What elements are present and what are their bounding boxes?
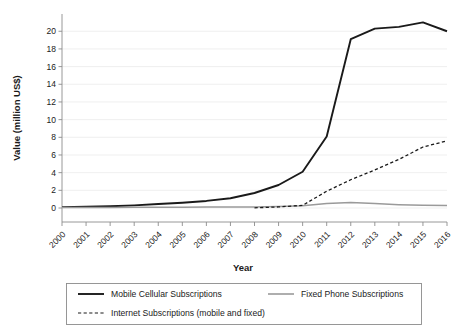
x-tick-label: 2010	[288, 229, 309, 250]
x-tick-label: 2005	[167, 229, 188, 250]
x-tick-label: 2014	[384, 229, 405, 250]
x-axis-ticks: 2000200120022003200420052006200720082009…	[47, 222, 453, 250]
y-tick-label: 2	[51, 185, 56, 195]
x-tick-label: 2001	[71, 229, 92, 250]
x-tick-label: 2016	[432, 229, 453, 250]
series-line-2	[255, 141, 448, 208]
line-chart: 02468101214161820 2000200120022003200420…	[0, 0, 454, 333]
series-line-0	[62, 22, 447, 207]
y-axis-title: Value (million US$)	[11, 75, 22, 161]
x-tick-label: 2013	[360, 229, 381, 250]
y-tick-label: 20	[47, 26, 57, 36]
gridlines	[62, 31, 447, 208]
x-axis-title: Year	[233, 262, 253, 273]
x-tick-label: 2002	[95, 229, 116, 250]
chart-figure: 02468101214161820 2000200120022003200420…	[0, 0, 454, 333]
y-tick-label: 0	[51, 203, 56, 213]
y-tick-label: 4	[51, 168, 56, 178]
y-tick-label: 16	[47, 62, 57, 72]
y-tick-label: 18	[47, 44, 57, 54]
legend-label-1: Fixed Phone Subscriptions	[301, 289, 403, 299]
x-tick-label: 2006	[191, 229, 212, 250]
x-tick-label: 2015	[408, 229, 429, 250]
data-series-group	[62, 22, 447, 207]
x-tick-label: 2004	[143, 229, 164, 250]
y-tick-label: 6	[51, 150, 56, 160]
x-tick-label: 2007	[215, 229, 236, 250]
y-tick-label: 10	[47, 115, 57, 125]
x-tick-label: 2008	[239, 229, 260, 250]
x-tick-label: 2000	[47, 229, 68, 250]
y-tick-label: 8	[51, 132, 56, 142]
legend-label-2: Internet Subscriptions (mobile and fixed…	[111, 308, 265, 318]
x-tick-label: 2012	[336, 229, 357, 250]
y-tick-label: 14	[47, 79, 57, 89]
y-axis-ticks: 02468101214161820	[47, 26, 62, 213]
x-tick-label: 2011	[312, 229, 332, 249]
plot-axes	[62, 14, 447, 222]
y-tick-label: 12	[47, 97, 57, 107]
chart-legend: Mobile Cellular SubscriptionsFixed Phone…	[67, 284, 422, 325]
x-tick-label: 2003	[119, 229, 140, 250]
legend-label-0: Mobile Cellular Subscriptions	[111, 289, 222, 299]
x-tick-label: 2009	[264, 229, 285, 250]
